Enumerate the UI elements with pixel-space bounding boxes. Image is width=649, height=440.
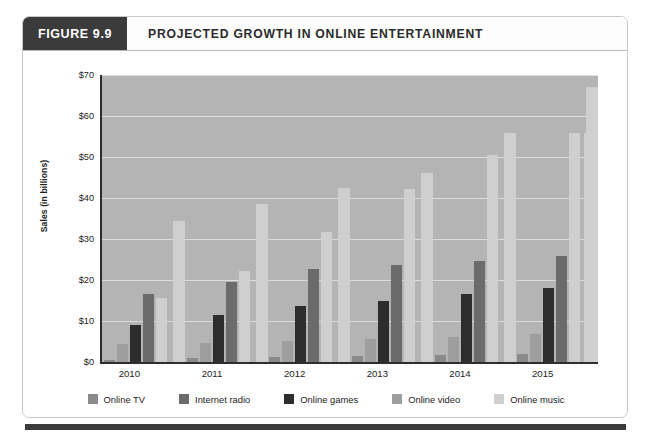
legend-swatch-icon — [179, 394, 189, 404]
y-axis-title: Sales (in billions) — [39, 136, 49, 256]
plot-area — [100, 75, 598, 364]
x-tick-label: 2014 — [449, 368, 470, 379]
bar — [239, 271, 250, 362]
bar — [143, 294, 154, 362]
bars-layer — [102, 75, 598, 362]
bar — [308, 269, 319, 362]
bar — [504, 133, 516, 362]
bar — [117, 344, 128, 362]
legend-item[interactable]: Internet radio — [179, 394, 250, 405]
bar — [269, 357, 280, 362]
bar — [543, 288, 554, 362]
chart-region: Sales (in billions) $0$10$20$30$40$50$60… — [23, 51, 628, 395]
bar — [295, 306, 306, 362]
bar — [213, 315, 224, 362]
legend-label: Online TV — [104, 394, 146, 405]
legend-item[interactable]: Online music — [494, 394, 564, 405]
bar — [130, 325, 141, 362]
bar — [338, 188, 350, 362]
bar — [569, 133, 580, 362]
bar — [391, 265, 402, 362]
y-tick-label: $70 — [54, 70, 94, 80]
x-tick-label: 2012 — [284, 368, 305, 379]
bar — [378, 301, 389, 363]
y-tick-label: $30 — [54, 234, 94, 244]
figure-bottom-rule — [25, 424, 626, 430]
bar — [461, 294, 472, 362]
bar — [584, 133, 597, 362]
y-tick-label: $10 — [54, 316, 94, 326]
legend-label: Internet radio — [195, 394, 250, 405]
bar — [173, 221, 185, 362]
legend-swatch-icon — [494, 394, 504, 404]
x-tick-label: 2013 — [367, 368, 388, 379]
legend-item[interactable]: Online TV — [88, 394, 146, 405]
y-tick-label: $60 — [54, 111, 94, 121]
legend-swatch-icon — [392, 394, 402, 404]
bar — [487, 155, 498, 362]
bar — [321, 232, 332, 362]
y-tick-label: $0 — [54, 357, 94, 367]
bar — [156, 298, 167, 362]
figure-number-badge: FIGURE 9.9 — [23, 17, 127, 50]
bar — [556, 256, 567, 362]
legend-label: Online video — [408, 394, 460, 405]
bar — [104, 360, 115, 362]
bar — [421, 173, 433, 362]
figure-title: PROJECTED GROWTH IN ONLINE ENTERTAINMENT — [127, 17, 627, 50]
legend-swatch-icon — [88, 394, 98, 404]
legend-label: Online games — [300, 394, 358, 405]
bar — [226, 282, 237, 362]
chart-legend: Online TVInternet radioOnline gamesOnlin… — [23, 389, 628, 409]
x-tick-label: 2015 — [532, 368, 553, 379]
figure-header: FIGURE 9.9 PROJECTED GROWTH IN ONLINE EN… — [23, 17, 627, 51]
y-tick-label: $40 — [54, 193, 94, 203]
bar — [365, 339, 376, 362]
bar — [282, 341, 293, 362]
legend-swatch-icon — [284, 394, 294, 404]
bar — [530, 334, 541, 362]
bar — [474, 261, 485, 362]
y-tick-label: $50 — [54, 152, 94, 162]
legend-item[interactable]: Online games — [284, 394, 358, 405]
bar — [256, 204, 268, 362]
x-tick-label: 2010 — [119, 368, 140, 379]
bar — [404, 189, 415, 362]
bar — [517, 354, 528, 362]
x-tick-label: 2011 — [202, 368, 223, 379]
bar — [200, 343, 211, 362]
y-axis-tick-labels: $0$10$20$30$40$50$60$70 — [52, 75, 94, 362]
bar — [435, 355, 446, 362]
legend-label: Online music — [510, 394, 564, 405]
bar — [448, 337, 459, 362]
bar — [352, 356, 363, 362]
legend-item[interactable]: Online video — [392, 394, 460, 405]
y-tick-label: $20 — [54, 275, 94, 285]
figure-card: FIGURE 9.9 PROJECTED GROWTH IN ONLINE EN… — [22, 16, 628, 418]
bar — [187, 358, 198, 362]
